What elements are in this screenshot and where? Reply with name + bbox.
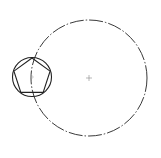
center-mark-icon xyxy=(86,75,92,81)
cad-drawing xyxy=(0,0,161,158)
